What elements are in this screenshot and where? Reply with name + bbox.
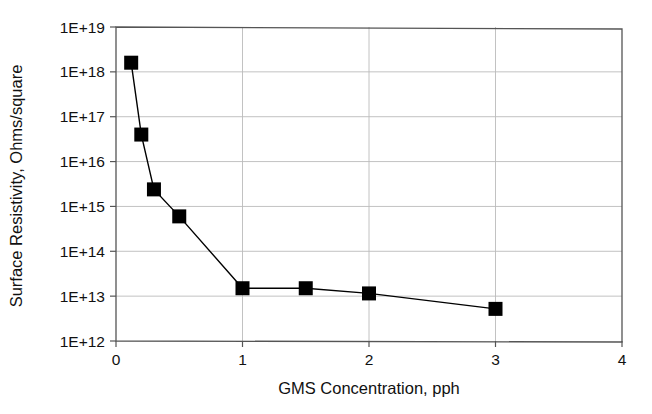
y-tick-label: 1E+16 — [60, 153, 105, 170]
resistivity-vs-concentration-chart: 1E+121E+131E+141E+151E+161E+171E+181E+19… — [0, 0, 652, 414]
y-tick-label: 1E+19 — [60, 19, 105, 36]
y-tick-label: 1E+13 — [60, 288, 105, 305]
data-point-marker — [124, 56, 138, 70]
x-axis-title: GMS Concentration, pph — [278, 379, 460, 397]
y-tick-label: 1E+14 — [60, 243, 106, 260]
y-tick-label: 1E+18 — [60, 63, 105, 80]
x-tick-label: 2 — [365, 351, 374, 368]
x-tick-label: 0 — [112, 351, 121, 368]
x-tick-label: 3 — [491, 351, 500, 368]
y-tick-label: 1E+15 — [60, 198, 105, 215]
y-tick-label: 1E+12 — [60, 333, 105, 350]
data-point-marker — [134, 128, 148, 142]
x-tick-label: 1 — [238, 351, 247, 368]
data-point-marker — [172, 209, 186, 223]
data-point-marker — [236, 281, 250, 295]
data-point-marker — [299, 281, 313, 295]
y-axis-title: Surface Resistivity, Ohms/square — [7, 65, 25, 308]
data-point-marker — [362, 286, 376, 300]
y-tick-label: 1E+17 — [60, 108, 105, 125]
x-tick-label: 4 — [618, 351, 627, 368]
chart-figure: 1E+121E+131E+141E+151E+161E+171E+181E+19… — [0, 0, 652, 414]
data-point-marker — [147, 182, 161, 196]
data-point-marker — [489, 302, 503, 316]
